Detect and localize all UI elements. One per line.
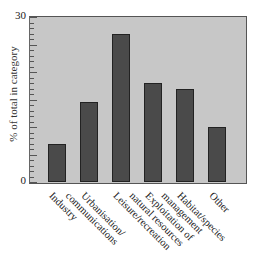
y-minor-tick <box>30 133 34 134</box>
y-minor-tick <box>30 122 34 123</box>
bar-chart: % of total in category 30 0 IndustryUrba… <box>0 0 265 279</box>
y-minor-tick <box>30 116 34 117</box>
bar-other <box>208 127 226 182</box>
y-minor-tick <box>30 171 34 172</box>
y-axis-label: % of total in category <box>7 29 19 159</box>
y-minor-tick <box>30 61 34 62</box>
y-minor-tick <box>30 23 34 24</box>
y-minor-tick <box>30 56 34 57</box>
y-major-tick <box>30 45 37 46</box>
y-minor-tick <box>30 144 34 145</box>
bar-industry <box>48 144 66 183</box>
y-minor-tick <box>30 177 34 178</box>
bar-leisure-recreation <box>112 34 130 183</box>
y-minor-tick <box>30 67 34 68</box>
y-minor-tick <box>30 28 34 29</box>
y-minor-tick <box>30 138 34 139</box>
y-major-tick <box>30 127 37 128</box>
y-minor-tick <box>30 160 34 161</box>
y-minor-tick <box>30 166 34 167</box>
y-minor-tick <box>30 105 34 106</box>
y-minor-tick <box>30 78 34 79</box>
y-minor-tick <box>30 50 34 51</box>
y-major-tick <box>30 182 37 183</box>
y-tick-label-min: 0 <box>12 174 26 186</box>
y-major-tick <box>30 17 37 18</box>
y-major-tick <box>30 100 37 101</box>
y-major-tick <box>30 72 37 73</box>
y-minor-tick <box>30 94 34 95</box>
y-minor-tick <box>30 149 34 150</box>
y-major-tick <box>30 155 37 156</box>
y-minor-tick <box>30 34 34 35</box>
bar-exploitation-of-natural-resources <box>144 83 162 182</box>
x-tick-label: Other <box>207 190 232 215</box>
y-minor-tick <box>30 111 34 112</box>
y-minor-tick <box>30 89 34 90</box>
y-minor-tick <box>30 39 34 40</box>
plot-area <box>29 16 247 184</box>
bar-habitat-species-management <box>176 89 194 183</box>
y-tick-label-max: 30 <box>12 9 26 21</box>
y-minor-tick <box>30 83 34 84</box>
bar-urbanisation-communications <box>80 102 98 182</box>
